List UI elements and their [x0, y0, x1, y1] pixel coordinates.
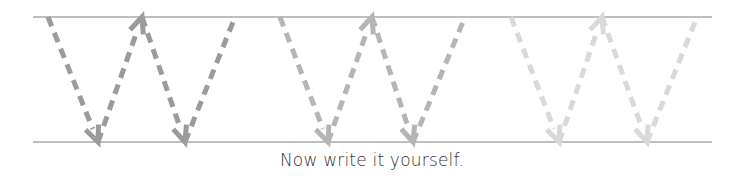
stroke-segment — [602, 17, 642, 129]
stroke-segment — [98, 30, 137, 142]
stroke-segment — [559, 30, 597, 142]
stroke-segment — [185, 17, 235, 142]
stroke-segment — [372, 17, 409, 129]
stroke-segment — [511, 17, 554, 129]
instruction-text: Now write it yourself. — [0, 150, 744, 170]
stroke-segment — [142, 17, 180, 129]
letter-w-1 — [48, 17, 235, 142]
stroke-segment — [413, 17, 465, 142]
stroke-segment — [647, 17, 697, 142]
letter-w-2 — [280, 17, 465, 142]
stroke-segment — [280, 17, 323, 129]
letter-w-3 — [511, 17, 697, 142]
stroke-segment — [48, 17, 93, 129]
stroke-segment — [328, 30, 367, 142]
traceable-letters — [48, 17, 697, 142]
